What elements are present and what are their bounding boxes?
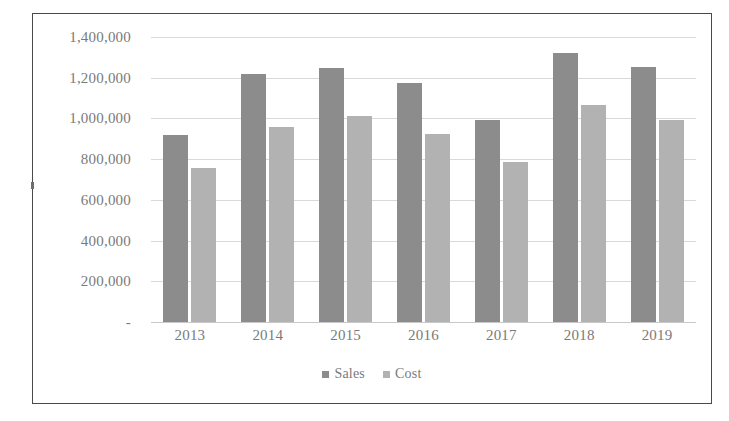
legend-swatch-icon bbox=[383, 371, 390, 378]
y-axis-tick-label: 800,000 bbox=[39, 151, 131, 168]
bar-group bbox=[540, 37, 618, 322]
bar-sales-2013[interactable] bbox=[163, 135, 188, 322]
gridline bbox=[151, 322, 696, 323]
legend-item-sales[interactable]: Sales bbox=[322, 366, 365, 382]
bar-sales-2014[interactable] bbox=[241, 74, 266, 322]
y-axis-tick-label: - bbox=[39, 314, 131, 331]
y-axis-tick-label: 200,000 bbox=[39, 273, 131, 290]
y-axis-tick-label: 1,000,000 bbox=[39, 110, 131, 127]
bar-sales-2015[interactable] bbox=[319, 68, 344, 322]
x-axis-tick-label: 2015 bbox=[307, 327, 385, 353]
bar-group bbox=[618, 37, 696, 322]
x-axis: 2013201420152016201720182019 bbox=[151, 327, 696, 353]
bar-groups bbox=[151, 37, 696, 322]
legend-label: Cost bbox=[395, 366, 421, 382]
bar-sales-2017[interactable] bbox=[475, 120, 500, 322]
legend-label: Sales bbox=[334, 366, 365, 382]
left-edge-tick-mark bbox=[31, 182, 34, 189]
bar-group bbox=[462, 37, 540, 322]
bar-cost-2018[interactable] bbox=[581, 105, 606, 322]
x-axis-tick-label: 2018 bbox=[540, 327, 618, 353]
y-axis-tick-label: 1,200,000 bbox=[39, 69, 131, 86]
bar-cost-2014[interactable] bbox=[269, 127, 294, 322]
x-axis-tick-label: 2019 bbox=[618, 327, 696, 353]
y-axis: 1,400,0001,200,0001,000,000800,000600,00… bbox=[39, 37, 131, 322]
bar-cost-2013[interactable] bbox=[191, 168, 216, 322]
legend-swatch-icon bbox=[322, 371, 329, 378]
x-axis-tick-label: 2017 bbox=[462, 327, 540, 353]
bar-group bbox=[307, 37, 385, 322]
bar-cost-2019[interactable] bbox=[659, 120, 684, 322]
bar-cost-2016[interactable] bbox=[425, 134, 450, 322]
bar-cost-2017[interactable] bbox=[503, 162, 528, 322]
bar-group bbox=[385, 37, 463, 322]
x-axis-tick-label: 2016 bbox=[385, 327, 463, 353]
x-axis-tick-label: 2014 bbox=[229, 327, 307, 353]
plot-area bbox=[151, 37, 696, 322]
bar-sales-2018[interactable] bbox=[553, 53, 578, 322]
bar-group bbox=[151, 37, 229, 322]
bar-sales-2019[interactable] bbox=[631, 67, 656, 322]
chart-legend: SalesCost bbox=[33, 366, 711, 382]
y-axis-tick-label: 400,000 bbox=[39, 232, 131, 249]
chart-frame: 1,400,0001,200,0001,000,000800,000600,00… bbox=[32, 13, 712, 404]
bar-cost-2015[interactable] bbox=[347, 116, 372, 322]
chart-plot-wrapper: 1,400,0001,200,0001,000,000800,000600,00… bbox=[33, 14, 711, 403]
y-axis-tick-label: 600,000 bbox=[39, 191, 131, 208]
bar-sales-2016[interactable] bbox=[397, 83, 422, 322]
legend-item-cost[interactable]: Cost bbox=[383, 366, 421, 382]
x-axis-tick-label: 2013 bbox=[151, 327, 229, 353]
bar-group bbox=[229, 37, 307, 322]
y-axis-tick-label: 1,400,000 bbox=[39, 29, 131, 46]
